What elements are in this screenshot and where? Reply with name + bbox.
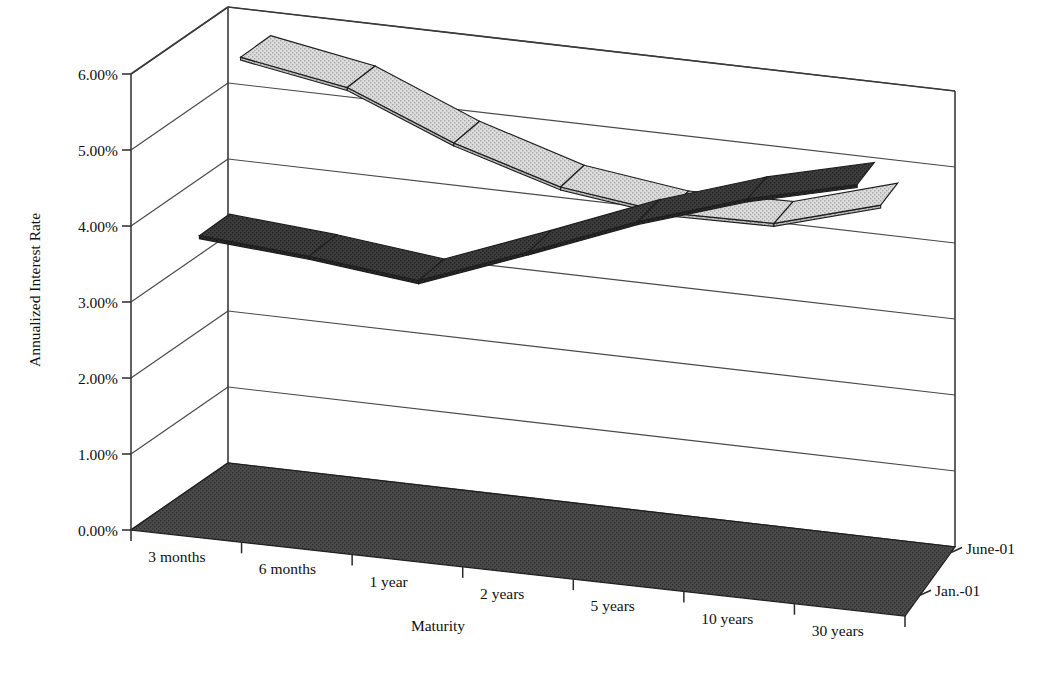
back-wall-gridline <box>228 387 955 471</box>
category-label: 30 years <box>812 622 864 639</box>
back-wall-gridline <box>228 311 955 395</box>
category-label: 2 years <box>480 585 524 602</box>
y-tick-label: 4.00% <box>78 218 118 235</box>
category-label: 10 years <box>701 610 753 627</box>
category-label: 1 year <box>369 573 408 590</box>
yield-curve-3d-chart: 0.00%1.00%2.00%3.00%4.00%5.00%6.00%3 mon… <box>0 0 1058 679</box>
y-axis-title: Annualized Interest Rate <box>26 213 43 367</box>
back-wall-gridline <box>228 83 955 167</box>
y-tick-label: 5.00% <box>78 142 118 159</box>
top-left-edge <box>131 7 228 74</box>
category-label: 3 months <box>148 548 205 565</box>
y-tick-label: 6.00% <box>78 66 118 83</box>
y-tick-label: 1.00% <box>78 446 118 463</box>
y-tick-label: 3.00% <box>78 294 118 311</box>
series-label: June-01 <box>966 540 1015 557</box>
ribbon-series[interactable] <box>241 36 898 227</box>
series-label: Jan.-01 <box>935 582 980 599</box>
y-tick-label: 0.00% <box>78 522 118 539</box>
category-label: 5 years <box>591 597 635 614</box>
ribbon-top-face <box>419 230 552 281</box>
chart-floor <box>131 463 955 616</box>
chart-canvas: 0.00%1.00%2.00%3.00%4.00%5.00%6.00%3 mon… <box>0 0 1058 679</box>
left-wall-gridline <box>131 387 228 454</box>
x-axis-title: Maturity <box>411 617 465 634</box>
left-wall-gridline <box>131 311 228 378</box>
ribbon-top-face <box>528 200 659 252</box>
ribbon-top-face <box>347 66 479 143</box>
y-tick-label: 2.00% <box>78 370 118 387</box>
left-wall-gridline <box>131 235 228 302</box>
left-wall-gridline <box>131 159 228 226</box>
category-label: 6 months <box>259 560 316 577</box>
left-wall-gridline <box>131 83 228 150</box>
